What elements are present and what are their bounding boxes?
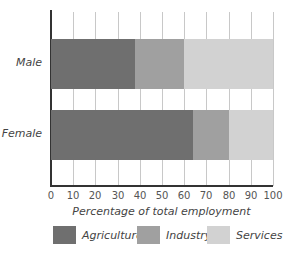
legend-label-agriculture: Agriculture: [82, 229, 143, 242]
legend-label-industry: Industry: [166, 229, 211, 242]
bar-male: [51, 39, 273, 89]
legend-item-agriculture: Agriculture: [53, 226, 143, 244]
x-tick-label: 30: [106, 190, 130, 201]
legend-swatch-agriculture: [53, 226, 76, 244]
legend-label-services: Services: [236, 229, 282, 242]
bar-segment-industry: [193, 110, 229, 160]
x-tick-label: 20: [83, 190, 107, 201]
bar-segment-agriculture: [51, 39, 135, 89]
x-tick-label: 70: [194, 190, 218, 201]
x-axis-line: [50, 185, 273, 187]
x-tick-label: 90: [239, 190, 263, 201]
legend-item-services: Services: [207, 226, 282, 244]
bar-segment-industry: [135, 39, 184, 89]
x-tick-label: 60: [172, 190, 196, 201]
x-axis-label: Percentage of total employment: [50, 205, 273, 218]
bar-segment-agriculture: [51, 110, 193, 160]
category-label-female: Female: [0, 127, 42, 140]
legend-swatch-industry: [137, 226, 160, 244]
x-tick-label: 80: [217, 190, 241, 201]
x-tick-label: 10: [61, 190, 85, 201]
category-label-male: Male: [0, 56, 42, 69]
bar-female: [51, 110, 273, 160]
y-axis-line: [50, 10, 52, 187]
x-tick-label: 0: [39, 190, 63, 201]
bar-segment-services: [229, 110, 273, 160]
x-tick-label: 50: [150, 190, 174, 201]
legend-swatch-services: [207, 226, 230, 244]
x-tick-label: 40: [128, 190, 152, 201]
gridline: [273, 12, 274, 186]
legend-item-industry: Industry: [137, 226, 211, 244]
bar-segment-services: [184, 39, 273, 89]
x-tick-label: 100: [261, 190, 285, 201]
